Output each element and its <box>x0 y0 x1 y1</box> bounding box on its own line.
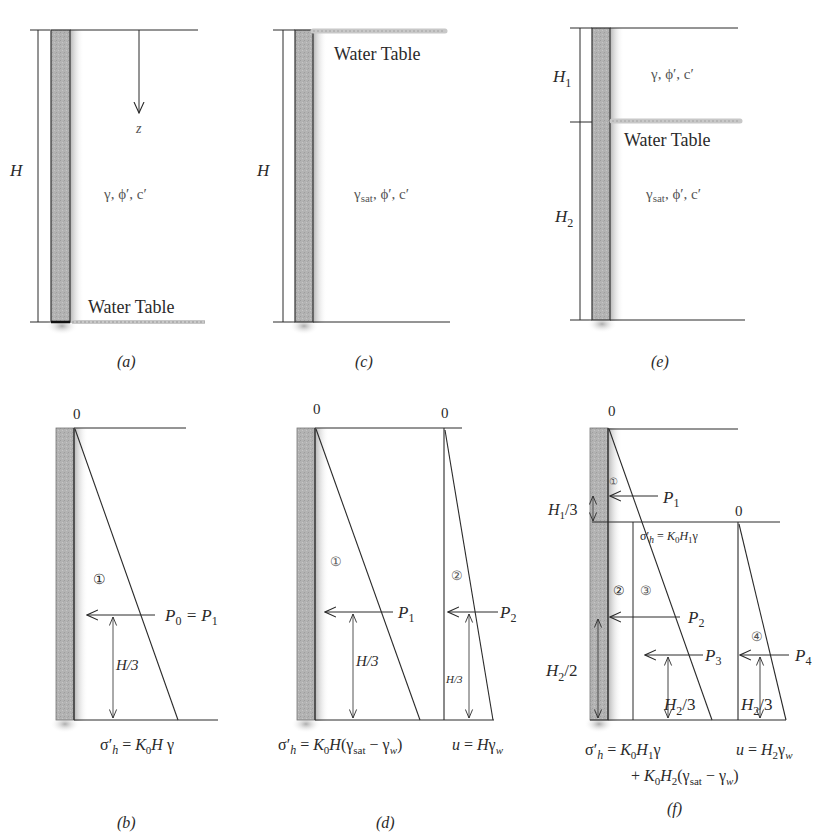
resultant-force-label: P0 = P1 <box>164 606 218 628</box>
pressure-triangle-1 <box>75 429 178 720</box>
region-1-marker: ① <box>330 554 342 569</box>
force-p3-label: P3 <box>704 646 721 668</box>
arm-h2-2-label: H2/2 <box>545 661 578 684</box>
moment-arm-2-label: H/3 <box>445 673 463 685</box>
region-1-marker: ① <box>93 572 106 587</box>
retaining-wall <box>295 30 313 322</box>
stress-at-water-table: σ′h = K0H1γ <box>640 529 699 545</box>
zero-label-pore: 0 <box>441 405 449 421</box>
pore-pressure-formula: u = Hγw <box>452 736 504 756</box>
region-3-marker: ③ <box>640 583 652 598</box>
lateral-earth-pressure-figure: z H γ, ϕ′, c′ Water Table (a) Water Tabl… <box>0 0 834 836</box>
upper-soil-properties-label: γ, ϕ′, c′ <box>650 66 694 82</box>
retaining-wall <box>297 428 315 720</box>
panel-b-caption: (b) <box>117 814 136 832</box>
panel-a: z H γ, ϕ′, c′ Water Table (a) <box>9 30 205 371</box>
effective-pressure-triangle <box>316 429 420 720</box>
retaining-wall <box>51 30 70 322</box>
panel-e-caption: (e) <box>651 353 669 371</box>
force-p4-label: P4 <box>794 646 811 668</box>
depth-label: z <box>135 121 142 136</box>
arm-h1-3-label: H1/3 <box>547 501 578 521</box>
water-table-label: Water Table <box>334 44 420 64</box>
water-table-label: Water Table <box>88 297 174 317</box>
panel-c: Water Table H γsat, ϕ′, c′ (c) <box>256 30 450 371</box>
retaining-wall <box>592 28 610 320</box>
panel-a-caption: (a) <box>117 353 136 371</box>
force-p2-label: P2 <box>687 608 704 630</box>
h2-label: H2 <box>554 207 573 230</box>
force-p2-label: P2 <box>499 603 516 625</box>
zero-label: 0 <box>73 406 81 422</box>
retaining-wall <box>590 428 608 720</box>
retaining-wall <box>56 428 74 720</box>
panel-b: 0 ① P0 = P1 H/3 σ′h = K0H γ (b) <box>50 406 218 832</box>
height-label: H <box>256 161 271 180</box>
force-p1-label: P1 <box>397 603 414 625</box>
pore-pressure-formula: u = H2γw <box>736 741 793 761</box>
region-2-marker: ② <box>613 583 625 598</box>
arm-h2-3-pore-label: H2/3 <box>740 695 773 718</box>
panel-f-caption: (f) <box>667 800 682 818</box>
effective-pressure-line <box>609 429 712 720</box>
wall-shadow <box>70 30 84 323</box>
region-1-marker: ① <box>609 476 618 487</box>
panel-f: 0 0 ① ② ③ ④ P1 H1/3 σ′h = K0H1γ P2 P3 P4… <box>545 403 811 818</box>
force-p1-label: P1 <box>662 488 679 510</box>
effective-stress-formula: σ′h = K0H(γsat − γw) <box>278 736 402 757</box>
effective-stress-formula-line1: σ′h = K0H1γ <box>585 741 660 762</box>
water-table-label: Water Table <box>624 130 710 150</box>
region-4-marker: ④ <box>751 629 763 644</box>
effective-stress-formula-line2: + K0H2(γsat − γw) <box>631 767 739 787</box>
region-2-marker: ② <box>451 568 463 583</box>
soil-properties-label: γsat, ϕ′, c′ <box>353 186 409 204</box>
moment-arm-1-label: H/3 <box>355 653 379 669</box>
soil-properties-label: γ, ϕ′, c′ <box>103 186 147 202</box>
panel-e: Water Table H1 H2 γ, ϕ′, c′ γsat, ϕ′, c′… <box>552 28 745 371</box>
panel-c-caption: (c) <box>355 353 373 371</box>
h1-label: H1 <box>552 67 571 90</box>
moment-arm-label: H/3 <box>115 657 139 673</box>
lower-soil-properties-label: γsat, ϕ′, c′ <box>645 186 701 204</box>
pore-pressure-triangle <box>739 524 786 720</box>
zero-label-pore: 0 <box>735 503 743 519</box>
panel-d: 0 0 ① ② P1 P2 H/3 H/3 σ′h = K0H(γsat − γ… <box>278 401 516 832</box>
height-label: H <box>9 161 24 180</box>
stress-formula: σ′h = K0H γ <box>100 736 174 757</box>
panel-d-caption: (d) <box>376 814 395 832</box>
zero-label-effective: 0 <box>313 401 321 417</box>
zero-label-effective: 0 <box>608 403 616 419</box>
